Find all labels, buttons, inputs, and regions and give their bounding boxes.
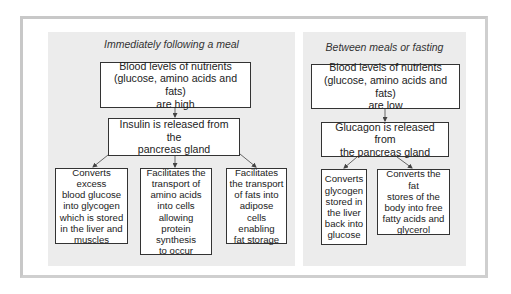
insulin-text: Insulin is released from the pancreas gl… bbox=[111, 118, 237, 156]
nutrients-low-text: Blood levels of nutrients (glucose, amin… bbox=[314, 61, 457, 111]
effect-glycogen-storage-box: Converts excess blood glucose into glyco… bbox=[55, 168, 128, 244]
effect-fat-breakdown-box: Converts the fat stores of the body into… bbox=[377, 169, 450, 235]
nutrients-low-box: Blood levels of nutrients (glucose, amin… bbox=[311, 64, 460, 109]
effect-glycogen-to-glucose-text: Converts glycogen stored in the liver ba… bbox=[325, 173, 363, 240]
effect-glycogen-storage-text: Converts excess blood glucose into glyco… bbox=[58, 167, 125, 245]
panel-title-after-meal: Immediately following a meal bbox=[48, 38, 295, 50]
effect-fat-storage-box: Facilitates the transport of fats into a… bbox=[226, 168, 287, 244]
panel-title-fasting: Between meals or fasting bbox=[303, 41, 466, 53]
effect-fat-breakdown-text: Converts the fat stores of the body into… bbox=[380, 168, 447, 235]
effect-glycogen-to-glucose-box: Converts glycogen stored in the liver ba… bbox=[321, 169, 367, 245]
glucagon-text: Glucagon is released from the pancreas g… bbox=[324, 121, 446, 159]
insulin-box: Insulin is released from the pancreas gl… bbox=[108, 118, 240, 156]
nutrients-high-text: Blood levels of nutrients (glucose, amin… bbox=[103, 60, 248, 110]
effect-amino-acid-transport-text: Facilitates the transport of amino acids… bbox=[143, 167, 209, 257]
effect-fat-storage-text: Facilitates the transport of fats into a… bbox=[229, 167, 284, 245]
nutrients-high-box: Blood levels of nutrients (glucose, amin… bbox=[100, 62, 251, 108]
effect-amino-acid-transport-box: Facilitates the transport of amino acids… bbox=[140, 168, 212, 255]
glucagon-box: Glucagon is released from the pancreas g… bbox=[321, 122, 449, 157]
